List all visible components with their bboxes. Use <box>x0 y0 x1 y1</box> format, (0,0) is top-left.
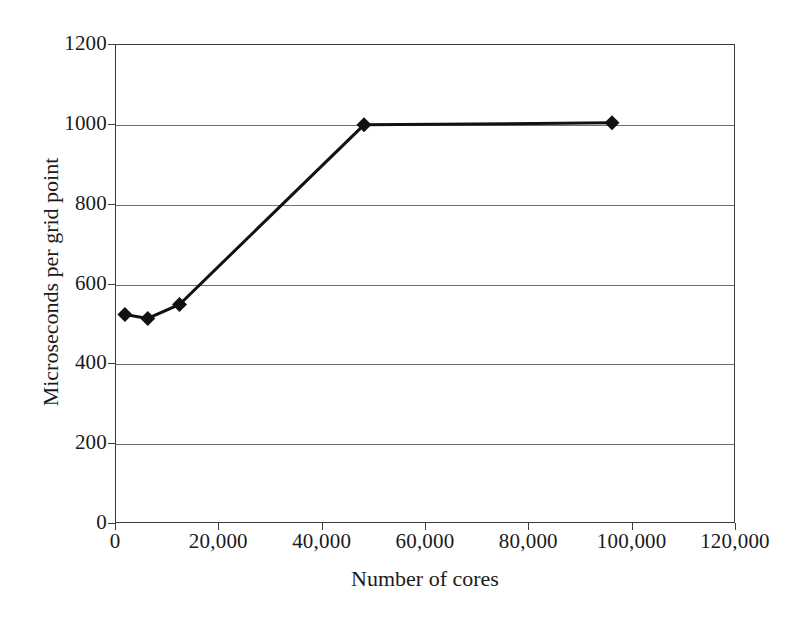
y-tick-mark-200 <box>108 443 115 444</box>
data-point-marker-1 <box>140 311 155 326</box>
data-series-line <box>116 45 736 524</box>
chart-figure: Microseconds per grid point 020040060080… <box>0 0 805 629</box>
y-tick-label-1000: 1000 <box>15 113 107 134</box>
x-axis-tick-labels: 020,00040,00060,00080,000100,000120,000 <box>115 529 735 561</box>
y-tick-label-400: 400 <box>15 352 107 373</box>
y-tick-label-200: 200 <box>15 432 107 453</box>
y-axis-tick-labels: 020040060080010001200 <box>0 44 107 523</box>
y-tick-mark-1200 <box>108 44 115 45</box>
data-point-marker-0 <box>117 307 132 322</box>
data-point-marker-4 <box>605 115 620 130</box>
y-tick-label-800: 800 <box>15 193 107 214</box>
y-tick-label-1200: 1200 <box>15 33 107 54</box>
y-tick-mark-800 <box>108 204 115 205</box>
y-tick-mark-400 <box>108 363 115 364</box>
x-tick-label-120000: 120,000 <box>655 529 805 553</box>
y-tick-mark-0 <box>108 523 115 524</box>
plot-area <box>115 44 735 523</box>
y-tick-mark-1000 <box>108 124 115 125</box>
y-tick-label-600: 600 <box>15 273 107 294</box>
series-polyline <box>125 123 612 319</box>
x-axis-title: Number of cores <box>115 566 735 592</box>
y-tick-mark-600 <box>108 284 115 285</box>
